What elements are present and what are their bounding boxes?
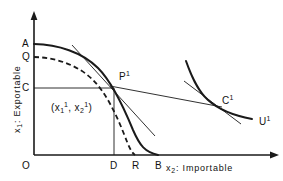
x-axis-title-text: : Importable: [176, 163, 233, 173]
trade-diagram-figure: x1: Exportable x2: Importable A Q C O D …: [0, 0, 283, 181]
coord-sub-1: 1: [60, 107, 64, 114]
production-point-superscript: 1: [126, 70, 130, 77]
axis-label-d: D: [110, 161, 118, 171]
coord-sub-2: 2: [80, 107, 84, 114]
coord-open: (x: [51, 102, 60, 113]
axis-label-c: C: [22, 83, 30, 93]
production-point-label: P1: [119, 72, 130, 82]
ppf-solid-curve: [34, 44, 158, 155]
axis-label-a: A: [22, 39, 29, 49]
y-axis-title-subscript: 1: [16, 123, 23, 128]
axis-label-q: Q: [22, 52, 30, 62]
axis-label-r: R: [132, 161, 140, 171]
y-axis-title-symbol: x: [12, 128, 22, 133]
utility-curve-label: U1: [259, 117, 271, 127]
x-axis-arrow-icon: [270, 152, 279, 159]
axis-label-b: B: [155, 161, 162, 171]
y-axis-arrow-icon: [31, 11, 38, 20]
y-axis-title: x1: Exportable: [13, 65, 22, 133]
utility-curve-symbol: U: [259, 116, 267, 127]
production-point-symbol: P: [119, 71, 126, 82]
consumption-point-superscript: 1: [230, 94, 234, 101]
coord-sup-2: 1: [84, 101, 88, 108]
coord-comma: , x: [68, 102, 80, 113]
consumption-point-label: C1: [222, 96, 234, 106]
x-axis-title: x2: Importable: [166, 164, 233, 173]
diagram-canvas: [0, 0, 283, 181]
utility-curve-superscript: 1: [267, 115, 271, 122]
consumption-point-symbol: C: [222, 95, 230, 106]
x-axis-title-subscript: 2: [171, 167, 176, 174]
coord-sup-1: 1: [64, 101, 68, 108]
axis-label-origin: O: [22, 161, 30, 171]
coord-close: ): [89, 102, 93, 113]
domestic-price-tangent-line: [72, 45, 155, 136]
y-axis-title-text: : Exportable: [12, 65, 22, 123]
coordinate-annotation: (x11, x21): [51, 103, 92, 113]
